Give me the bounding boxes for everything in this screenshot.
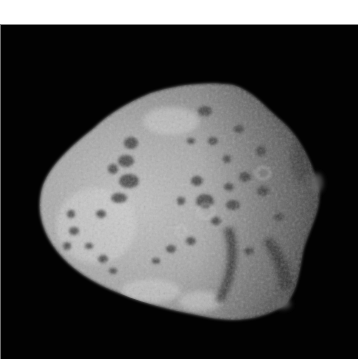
- asteroid-photo: [1, 1, 358, 359]
- space-photo-frame: [0, 24, 358, 359]
